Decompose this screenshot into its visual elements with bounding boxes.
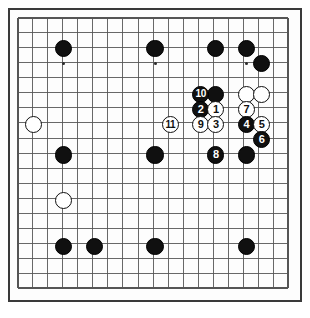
- stone-white[interactable]: [253, 86, 270, 103]
- move-number: 11: [165, 120, 175, 130]
- move-stone-3[interactable]: 3: [207, 116, 224, 133]
- stone-black[interactable]: [146, 238, 163, 255]
- stone-black[interactable]: [253, 55, 270, 72]
- move-number: 10: [196, 89, 206, 99]
- move-number: 8: [213, 149, 219, 160]
- stone-black[interactable]: [146, 146, 163, 163]
- stone-black[interactable]: [238, 146, 255, 163]
- stone-black[interactable]: [207, 40, 224, 57]
- stone-black[interactable]: [146, 40, 163, 57]
- stone-black[interactable]: [238, 238, 255, 255]
- move-number: 2: [198, 104, 204, 115]
- move-number: 7: [244, 104, 250, 115]
- move-number: 4: [244, 119, 250, 130]
- stone-black[interactable]: [55, 238, 72, 255]
- stone-black[interactable]: [86, 238, 103, 255]
- stone-black[interactable]: [55, 40, 72, 57]
- star-point: [245, 62, 248, 65]
- stone-white[interactable]: [25, 116, 42, 133]
- stone-white[interactable]: [55, 192, 72, 209]
- go-diagram-container: 1021711934568: [0, 0, 310, 318]
- move-number: 6: [259, 134, 265, 145]
- stone-black[interactable]: [55, 146, 72, 163]
- move-number: 3: [213, 119, 219, 130]
- move-number: 9: [198, 119, 204, 130]
- move-number: 1: [213, 104, 219, 115]
- star-point: [154, 62, 157, 65]
- go-board[interactable]: 1021711934568: [8, 8, 302, 302]
- stone-layer: 1021711934568: [10, 10, 300, 300]
- move-stone-11[interactable]: 11: [162, 116, 179, 133]
- stone-black[interactable]: [238, 40, 255, 57]
- move-stone-8[interactable]: 8: [207, 146, 224, 163]
- move-stone-6[interactable]: 6: [253, 131, 270, 148]
- move-number: 5: [259, 119, 265, 130]
- star-point: [62, 62, 65, 65]
